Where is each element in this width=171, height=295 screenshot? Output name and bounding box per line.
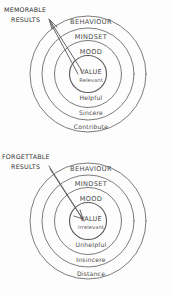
ring-label-mindset-bottom: MINDSET <box>75 180 108 188</box>
ring-label-contribute-top: Contribute <box>74 123 108 130</box>
ring-label-behaviour-top: BEHAVIOUR <box>70 18 112 26</box>
core-label-irrelevant-bottom: Irrelevant <box>78 224 104 230</box>
callout-label-memorable-line1: MEMORABLE <box>4 6 46 13</box>
diagram-page: BEHAVIOUR MINDSET MOOD VALUE Relevant He… <box>0 0 171 295</box>
ring-label-insincere-bottom: Insincere <box>76 256 105 263</box>
core-label-value-top: VALUE <box>80 68 102 76</box>
ring-label-mood-top: MOOD <box>80 48 103 56</box>
ring-label-mindset-top: MINDSET <box>75 33 108 41</box>
ring-label-behaviour-bottom: BEHAVIOUR <box>70 165 112 173</box>
ring-label-mood-bottom: MOOD <box>80 195 103 203</box>
diagram-forgettable-results: BEHAVIOUR MINDSET MOOD VALUE Irrelevant … <box>0 147 171 295</box>
callout-label-memorable-line2: RESULTS <box>11 16 40 23</box>
callout-label-forgettable-line1: FORGETTABLE <box>2 153 50 160</box>
ring-label-helpful-top: Helpful <box>80 94 103 102</box>
ring-label-unhelpful-bottom: Unhelpful <box>76 241 107 249</box>
ring-label-sincere-top: Sincere <box>79 109 103 116</box>
callout-label-forgettable-line2: RESULTS <box>11 163 40 170</box>
core-label-relevant-top: Relevant <box>79 77 103 83</box>
ring-label-distance-bottom: Distance <box>77 270 105 277</box>
callout-pointer-line-top <box>49 19 82 71</box>
diagram-memorable-results: BEHAVIOUR MINDSET MOOD VALUE Relevant He… <box>0 0 171 148</box>
